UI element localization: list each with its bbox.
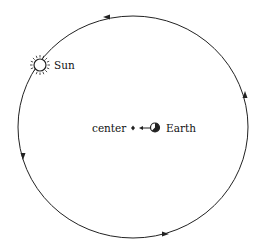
- sun-icon: [30, 55, 50, 75]
- earth-icon: [151, 123, 160, 132]
- orbit-diagram: Sun center Earth: [0, 0, 259, 249]
- sun-label: Sun: [54, 59, 75, 71]
- center-label: center: [92, 122, 127, 134]
- earth-label: Earth: [166, 122, 196, 134]
- direction-arrow-icon: [21, 153, 26, 160]
- center-point-icon: [131, 126, 135, 131]
- earth-to-center-arrow-icon: [139, 126, 150, 130]
